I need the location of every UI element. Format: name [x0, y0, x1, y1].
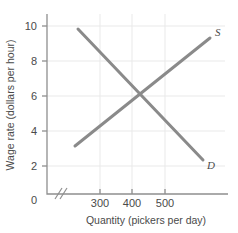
y-tick-label-2: 2: [31, 160, 37, 172]
y-tick-label-10: 10: [25, 20, 37, 32]
x-tick-label-400: 400: [123, 197, 141, 209]
chart-canvas: 10 8 6 4 2 0 300 400 500 S D Wage rate (…: [0, 0, 238, 233]
y-axis-title: Wage rate (dollars per hour): [4, 40, 16, 171]
y-tick-label-0: 0: [31, 194, 37, 206]
x-tick-label-500: 500: [156, 197, 174, 209]
supply-curve: [75, 38, 210, 146]
axis-lines: [47, 14, 228, 194]
x-axis-title: Quantity (pickers per day): [86, 214, 206, 226]
demand-curve-label: D: [206, 159, 215, 171]
y-tick-label-8: 8: [31, 55, 37, 67]
y-tick-label-4: 4: [31, 125, 37, 137]
y-tick-marks: [42, 26, 47, 166]
x-tick-marks: [100, 189, 165, 194]
supply-curve-label: S: [215, 26, 221, 38]
x-tick-label-300: 300: [91, 197, 109, 209]
supply-demand-chart: 10 8 6 4 2 0 300 400 500 S D Wage rate (…: [0, 0, 238, 233]
vertical-gridlines: [100, 14, 165, 194]
y-tick-label-6: 6: [31, 90, 37, 102]
